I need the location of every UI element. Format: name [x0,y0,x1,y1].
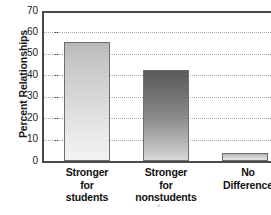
x-label-line-2: for [123,179,209,192]
caret-artifact: ^ [157,203,160,210]
y-tick-label-30: 30 [16,91,38,101]
bar-no-difference[interactable] [222,153,268,161]
bar-stronger-for-nonstudents[interactable] [143,70,189,161]
x-axis-line [42,161,271,163]
y-tick-label-50: 50 [16,48,38,58]
x-label-line-2: for [49,179,125,192]
y-tick-label-70: 70 [16,6,38,16]
x-label-line-1: Stronger [123,166,209,179]
x-label-no-difference: No Difference [207,166,271,191]
bar-stronger-for-students[interactable] [64,42,110,161]
x-label-line-3: students [49,191,125,204]
y-tick-label-0: 0 [16,156,38,166]
y-tick-label-20: 20 [16,113,38,123]
x-label-stronger-for-students: Stronger for students [49,166,125,204]
plot-top-border [42,11,271,13]
x-label-line-1: No [207,166,271,179]
x-label-stronger-for-nonstudents: Stronger for nonstudents [123,166,209,204]
x-label-line-1: Stronger [49,166,125,179]
y-tick-label-60: 60 [16,27,38,37]
x-label-line-3: nonstudents [123,191,209,204]
gridline-60 [44,32,271,34]
plot-area [42,11,271,163]
x-label-line-2: Difference [207,179,271,192]
y-tick-label-10: 10 [16,134,38,144]
y-tick-label-40: 40 [16,70,38,80]
bar-chart: Percent Relationships 70 60 50 40 30 20 … [0,0,271,215]
y-axis-tick-labels: 70 60 50 40 30 20 10 0 [16,0,38,215]
